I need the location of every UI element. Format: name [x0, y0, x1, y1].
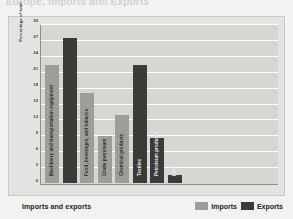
y-tick-label: 21 — [33, 67, 38, 71]
bar-slot: Crude petroleum — [98, 25, 112, 183]
bar-slot — [63, 25, 77, 183]
y-tick-label: 9 — [36, 131, 38, 135]
bar-category-label: Crude petroleum — [102, 139, 107, 177]
bar-slot: Petroleum products — [150, 25, 164, 183]
y-tick-label: 3 — [36, 163, 38, 167]
legend-label-imports: Imports — [211, 203, 237, 210]
bar-category-label: Chemical products — [120, 134, 125, 176]
y-axis-title: Percentage of total — [18, 0, 23, 67]
legend-label-exports: Exports — [257, 203, 283, 210]
y-tick-label: 27 — [33, 35, 38, 39]
y-tick-label: 0 — [36, 179, 38, 183]
bar-group: Machinery and transportation equipmentFo… — [42, 25, 278, 183]
bar[interactable] — [168, 175, 182, 183]
bar-slot: Food, beverages, and tobacco — [80, 25, 94, 183]
y-tick-label: 12 — [33, 115, 38, 119]
bar-slot: Textiles — [133, 25, 147, 183]
legend-swatch-imports-icon — [195, 202, 208, 210]
chart-footer: Imports and exports Imports Exports — [8, 198, 285, 214]
chart-figure: Percentage of total 302724211815129630 M… — [8, 16, 285, 196]
bar-category-label: Machinery and transportation equipment — [50, 85, 55, 176]
legend-item-exports[interactable]: Exports — [241, 202, 283, 210]
y-tick-label: 18 — [33, 83, 38, 87]
bar-category-label: Food, beverages, and tobacco — [85, 109, 90, 177]
bar-category-label: Textiles — [137, 159, 142, 176]
x-axis-title: Imports and exports — [22, 203, 91, 210]
y-tick-label: 6 — [36, 147, 38, 151]
legend-swatch-exports-icon — [241, 202, 254, 210]
y-tick-label: 24 — [33, 51, 38, 55]
bar-category-label: Petroleum products — [155, 132, 160, 176]
bar-slot: Furs — [168, 25, 182, 183]
y-tick-label: 15 — [33, 99, 38, 103]
plot-area: Machinery and transportation equipmentFo… — [40, 25, 278, 185]
legend-item-imports[interactable]: Imports — [195, 202, 237, 210]
legend: Imports Exports — [195, 202, 283, 210]
y-axis-tick-labels: 302724211815129630 — [24, 25, 38, 185]
y-tick-label: 30 — [33, 19, 38, 23]
bar[interactable] — [63, 38, 77, 183]
bar-category-label: Furs — [172, 166, 177, 176]
bar-slot: Chemical products — [115, 25, 129, 183]
bar-slot: Machinery and transportation equipment — [45, 25, 59, 183]
page-caption: Europe: Imports and Exports — [6, 0, 206, 8]
